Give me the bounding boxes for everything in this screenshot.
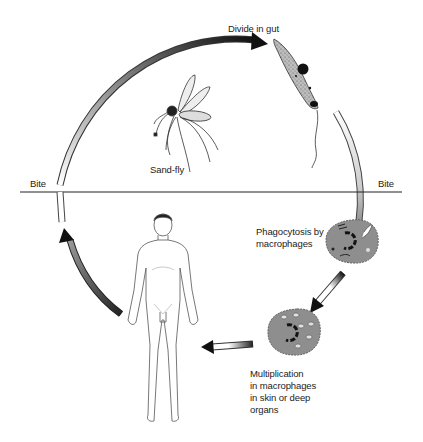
arrow-left-stub — [60, 192, 62, 222]
human-host-illustration — [128, 214, 198, 421]
label-bite-right: Bite — [378, 178, 394, 190]
label-sand-fly: Sand-fly — [150, 164, 184, 176]
sand-fly-illustration — [154, 75, 218, 172]
macrophage-multiplication — [268, 309, 320, 355]
label-line: in macrophages — [250, 380, 316, 392]
arrow-human-to-bite — [59, 228, 121, 314]
arrow-multi-to-human — [201, 340, 253, 354]
label-phagocytosis: Phagocytosis by macrophages — [256, 226, 324, 250]
life-cycle-diagram: Divide in gut Sand-fly Bite Bite Phagocy… — [0, 0, 423, 442]
arrow-phago-to-multi — [310, 273, 343, 313]
label-bite-left: Bite — [30, 178, 46, 190]
label-line: in skin or deep — [250, 392, 316, 404]
label-multiplication: Multiplication in macrophages in skin or… — [250, 368, 316, 416]
label-line: Phagocytosis by — [256, 226, 324, 238]
arrow-bite-to-gut — [60, 32, 268, 185]
label-line: Multiplication — [250, 368, 316, 380]
label-line: macrophages — [256, 238, 324, 250]
label-divide-in-gut: Divide in gut — [228, 23, 279, 35]
promastigote-illustration — [274, 39, 318, 168]
label-line: organs — [250, 404, 316, 416]
macrophage-phagocytosis — [326, 220, 378, 263]
